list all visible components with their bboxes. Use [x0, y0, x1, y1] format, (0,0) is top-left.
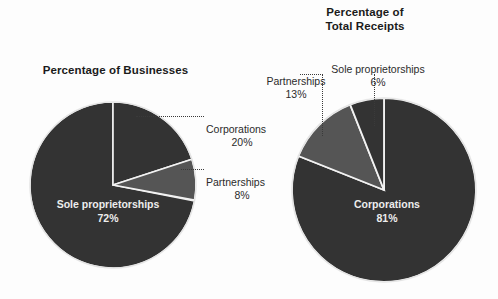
callout-partnerships-left: Partnerships 8% — [206, 163, 292, 215]
callout-corporations-left-name: Corporations — [206, 123, 266, 135]
inside-label-corporations-right: Corporations 81% — [324, 198, 450, 225]
callout-sole-proprietorships-right-name: Sole proprietorships — [331, 63, 424, 75]
inside-label-sole-proprietorships-left: Sole proprietorships 72% — [38, 198, 178, 225]
figure-canvas: Percentage of Businesses Percentage of T… — [0, 0, 498, 299]
chart-title-businesses: Percentage of Businesses — [18, 64, 213, 78]
chart-title-total-receipts: Percentage of Total Receipts — [300, 6, 430, 33]
callout-sole-proprietorships-right-percent: 6% — [320, 76, 436, 89]
callout-partnerships-right-name: Partnerships — [267, 75, 326, 87]
leader-line-partnerships-left — [181, 169, 204, 170]
callout-corporations-left-percent: 20% — [206, 136, 278, 149]
callout-sole-proprietorships-right: Sole proprietorships 6% — [320, 50, 436, 102]
leader-line-corporations-left — [136, 116, 204, 117]
callout-partnerships-left-percent: 8% — [206, 189, 278, 202]
callout-partnerships-left-name: Partnerships — [206, 176, 265, 188]
callout-corporations-left: Corporations 20% — [206, 110, 292, 162]
